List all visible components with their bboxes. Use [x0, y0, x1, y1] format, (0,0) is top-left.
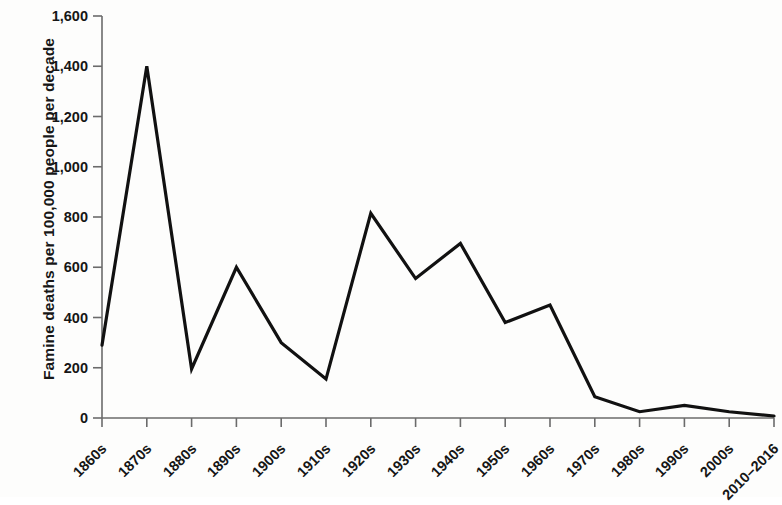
x-axis-ticks	[102, 418, 774, 427]
famine-deaths-series-line	[102, 66, 774, 416]
axis-lines	[102, 16, 774, 418]
y-axis-ticks	[93, 16, 102, 418]
